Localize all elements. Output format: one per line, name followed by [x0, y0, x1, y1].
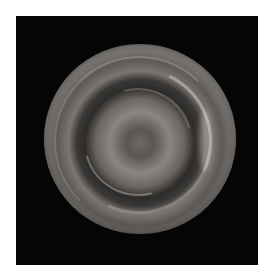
- bright-cloud-streak: [200, 110, 210, 170]
